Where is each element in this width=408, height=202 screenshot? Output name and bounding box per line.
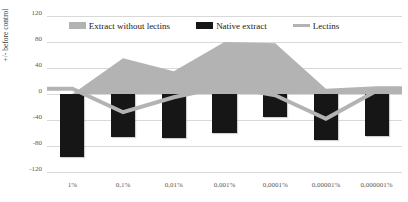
x-tick-2: 0,01% <box>148 181 199 189</box>
area-swatch-icon <box>69 22 86 29</box>
legend-item-native-extract: Native extract <box>196 21 267 31</box>
bar-swatch-icon <box>196 22 213 29</box>
y-axis-title: +/- before control <box>1 48 10 62</box>
y-tick-120: 120 <box>0 13 42 14</box>
line-series-lectins <box>47 16 402 172</box>
y-tick-neg120: -120 <box>0 169 42 170</box>
x-tick-3: 0,001% <box>199 181 250 189</box>
chart-legend: Extract without lectins Native extract L… <box>0 19 408 32</box>
line-swatch-icon <box>293 24 310 27</box>
legend-label-native-extract: Native extract <box>216 21 267 31</box>
x-tick-4: 0,0001% <box>250 181 301 189</box>
y-tick-80: 80 <box>0 39 42 40</box>
legend-item-lectins: Lectins <box>293 21 340 31</box>
y-tick-neg80: -80 <box>0 143 42 144</box>
legend-label-extract-without-lectins: Extract without lectins <box>89 21 170 31</box>
x-tick-5: 0,00001% <box>301 181 352 189</box>
chart-container: +/- before control 120 80 40 0 -40 -80 -… <box>0 0 408 202</box>
legend-item-extract-without-lectins: Extract without lectins <box>69 21 170 31</box>
x-axis-line <box>47 172 402 173</box>
x-tick-0: 1% <box>47 181 98 189</box>
y-tick-0: 0 <box>0 91 42 92</box>
y-tick-neg40: -40 <box>0 117 42 118</box>
plot-area <box>47 16 402 172</box>
x-tick-1: 0,1% <box>98 181 149 189</box>
y-tick-40: 40 <box>0 65 42 66</box>
x-tick-6: 0,000001% <box>351 181 402 189</box>
legend-label-lectins: Lectins <box>313 21 340 31</box>
